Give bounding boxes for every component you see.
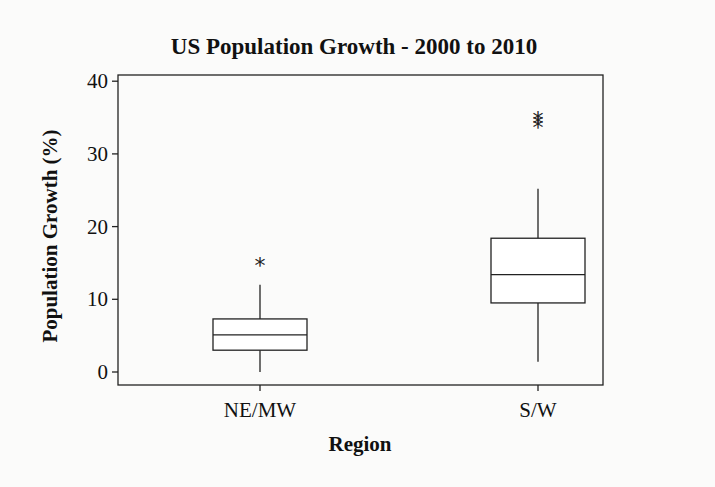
box-s-w: *** <box>491 107 585 362</box>
y-axis: 010203040 <box>87 69 118 384</box>
x-axis-label: Region <box>329 432 392 456</box>
box-plot-chart: US Population Growth - 2000 to 2010 0102… <box>0 0 715 487</box>
plot-frame <box>118 75 603 385</box>
y-tick-label: 20 <box>87 215 108 239</box>
box-ne-mw: * <box>213 253 307 372</box>
outlier-marker: * <box>255 253 266 278</box>
x-tick-label: S/W <box>519 398 557 422</box>
y-tick-label: 10 <box>87 287 108 311</box>
y-tick-label: 40 <box>87 69 108 93</box>
x-axis: NE/MWS/W <box>224 385 557 422</box>
y-tick-label: 30 <box>87 142 108 166</box>
chart-title: US Population Growth - 2000 to 2010 <box>171 34 537 59</box>
box-series: **** <box>213 107 585 372</box>
iqr-box <box>491 238 585 303</box>
outlier-marker: * <box>533 107 544 132</box>
x-tick-label: NE/MW <box>224 398 297 422</box>
y-tick-label: 0 <box>98 360 109 384</box>
y-axis-label: Population Growth (%) <box>38 129 62 342</box>
